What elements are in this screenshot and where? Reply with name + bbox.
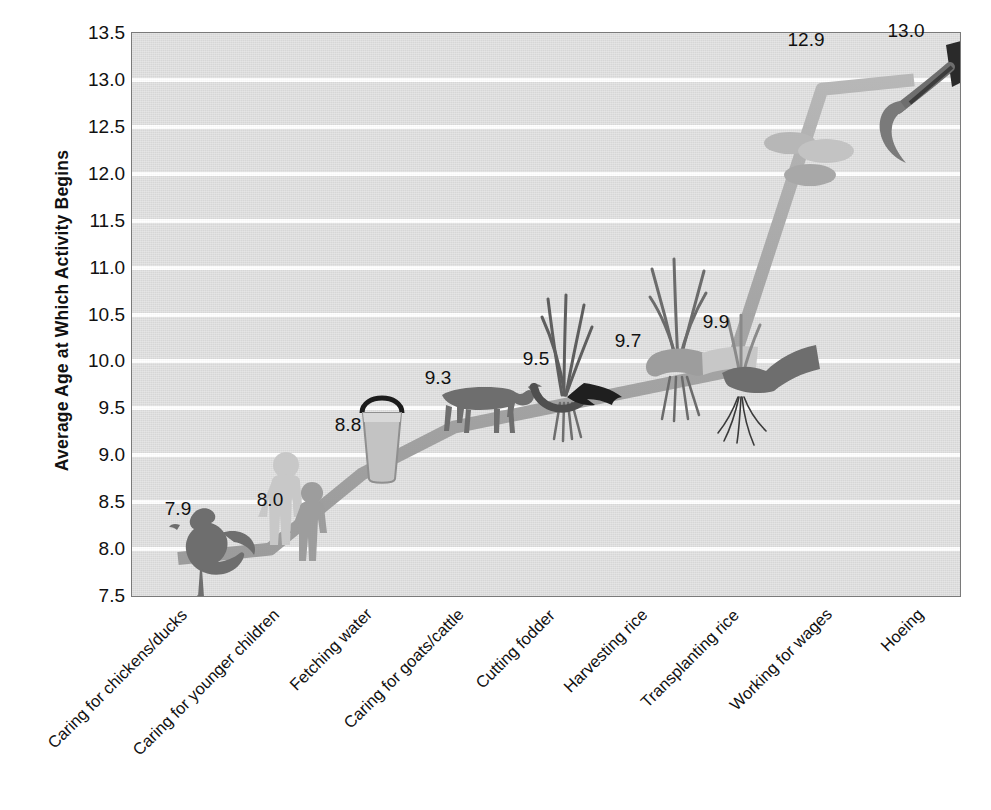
y-tick-label: 12.5 xyxy=(65,117,125,136)
series-line-and-icons xyxy=(132,33,960,596)
y-tick-label: 9.0 xyxy=(65,445,125,464)
rice-seedling-icon xyxy=(718,315,820,445)
plot-area xyxy=(131,32,961,597)
data-label: 13.0 xyxy=(888,20,925,42)
y-tick-label: 13.5 xyxy=(65,23,125,42)
y-tick-label: 7.5 xyxy=(65,586,125,605)
x-tick-label: Fetching water xyxy=(286,605,376,695)
y-tick-label: 11.5 xyxy=(65,211,125,230)
y-tick-label: 10.5 xyxy=(65,305,125,324)
data-label: 8.0 xyxy=(257,489,283,511)
data-label: 9.5 xyxy=(523,348,549,370)
y-tick-label: 11.0 xyxy=(65,258,125,277)
x-tick-label: Caring for younger children xyxy=(129,605,283,759)
data-label: 9.7 xyxy=(615,330,641,352)
data-label: 9.3 xyxy=(425,367,451,389)
y-tick-label: 10.0 xyxy=(65,351,125,370)
y-tick-label: 9.5 xyxy=(65,398,125,417)
y-tick-label: 8.0 xyxy=(65,539,125,558)
data-label: 12.9 xyxy=(788,29,825,51)
data-label: 9.9 xyxy=(703,311,729,333)
y-tick-label: 13.0 xyxy=(65,70,125,89)
x-tick-label: Hoeing xyxy=(877,605,927,655)
coins-icon xyxy=(764,132,854,186)
water-bucket-icon xyxy=(362,398,402,483)
chart-container: Average Age at Which Activity Begins 13.… xyxy=(0,0,991,810)
x-tick-label: Harvesting rice xyxy=(560,605,651,696)
y-tick-label: 8.5 xyxy=(65,492,125,511)
x-tick-label: Working for wages xyxy=(726,605,836,715)
data-label: 8.8 xyxy=(335,414,361,436)
x-tick-label: Cutting fodder xyxy=(472,605,559,692)
y-tick-label: 12.0 xyxy=(65,164,125,183)
hoe-icon xyxy=(880,39,960,163)
x-tick-label: Transplanting rice xyxy=(637,605,743,711)
data-label: 7.9 xyxy=(165,498,191,520)
